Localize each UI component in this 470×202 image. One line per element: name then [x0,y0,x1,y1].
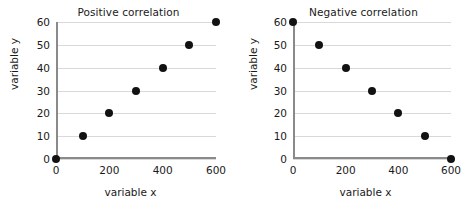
y-axis-label-negative: variable y [247,38,259,90]
x-axis-label-negative: variable x [235,186,470,198]
x-axis-line [56,157,216,159]
data-point [289,18,297,26]
gridline [56,113,216,114]
data-point [315,41,323,49]
scatter-plot-figure: Positive correlation variable y 01020304… [0,0,470,202]
y-axis-tick-label: 60 [37,16,50,28]
data-point [132,87,140,95]
y-axis-tick-label: 20 [274,107,287,119]
gridline [293,68,451,69]
x-axis-tick-label: 200 [336,164,356,176]
y-axis-tick-label: 30 [37,85,50,97]
x-axis-tick-label: 0 [290,164,297,176]
x-axis-tick-label: 200 [99,164,119,176]
y-axis-tick-label: 50 [274,39,287,51]
gridline [293,22,451,23]
y-axis-tick-label: 40 [37,62,50,74]
plot-area-positive: 01020304050600200400600 [56,22,216,159]
y-axis-tick-label: 0 [280,153,287,165]
data-point [368,87,376,95]
data-point [342,64,350,72]
y-axis-tick-label: 30 [274,85,287,97]
chart-panel-positive-correlation: Positive correlation variable y 01020304… [0,0,235,202]
data-point [79,132,87,140]
y-axis-tick-label: 40 [274,62,287,74]
y-axis-tick-label: 10 [274,130,287,142]
gridline [56,159,216,160]
data-point [185,41,193,49]
x-axis-tick-label: 0 [53,164,60,176]
gridline [293,113,451,114]
x-axis-tick-label: 600 [441,164,461,176]
y-axis-line [293,22,295,159]
chart-panel-negative-correlation: Negative correlation variable y 01020304… [235,0,470,202]
y-axis-label-positive: variable y [8,38,20,90]
y-axis-tick-label: 50 [37,39,50,51]
x-axis-tick-label: 400 [388,164,408,176]
data-point [447,155,455,163]
data-point [159,64,167,72]
chart-title-positive: Positive correlation [0,6,235,18]
data-point [421,132,429,140]
y-axis-line [56,22,58,159]
y-axis-tick-label: 20 [37,107,50,119]
data-point [394,109,402,117]
y-axis-tick-label: 10 [37,130,50,142]
plot-area-negative: 01020304050600200400600 [293,22,451,159]
data-point [105,109,113,117]
gridline [56,68,216,69]
gridline [56,22,216,23]
data-point [212,18,220,26]
chart-title-negative: Negative correlation [235,6,470,18]
x-axis-label-positive: variable x [0,186,235,198]
x-axis-tick-label: 400 [153,164,173,176]
x-axis-line [293,157,451,159]
y-axis-tick-label: 60 [274,16,287,28]
data-point [52,155,60,163]
y-axis-tick-label: 0 [43,153,50,165]
x-axis-tick-label: 600 [206,164,226,176]
gridline [293,159,451,160]
